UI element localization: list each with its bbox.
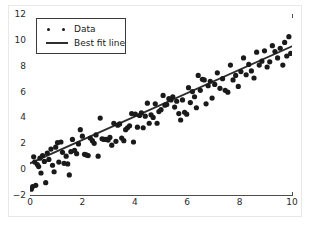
y-tick-label: 4 bbox=[20, 112, 26, 123]
data-point bbox=[196, 73, 201, 78]
axis-spine-bottom bbox=[30, 195, 292, 196]
data-point bbox=[147, 121, 152, 126]
legend-label-data: Data bbox=[71, 23, 96, 35]
data-point bbox=[151, 115, 156, 120]
data-point bbox=[154, 121, 159, 126]
data-point bbox=[178, 117, 183, 122]
data-point bbox=[262, 48, 267, 53]
data-point bbox=[74, 151, 79, 156]
data-point bbox=[158, 107, 163, 112]
x-tick-label: 10 bbox=[286, 197, 297, 208]
data-point bbox=[78, 127, 83, 132]
data-point bbox=[50, 163, 55, 168]
y-tick-label: 10 bbox=[15, 34, 26, 45]
solid-line-icon bbox=[41, 42, 71, 44]
data-point bbox=[76, 141, 81, 146]
data-point bbox=[131, 139, 136, 144]
data-point bbox=[208, 79, 213, 84]
data-point bbox=[80, 134, 85, 139]
data-point bbox=[272, 49, 277, 54]
data-point bbox=[153, 101, 158, 106]
data-point bbox=[127, 123, 132, 128]
best-fit-line bbox=[30, 46, 292, 163]
data-point bbox=[233, 73, 238, 78]
data-point bbox=[58, 139, 63, 144]
data-point bbox=[40, 153, 45, 158]
data-point bbox=[161, 93, 166, 98]
data-point bbox=[220, 76, 225, 81]
x-tick-label: 4 bbox=[132, 197, 138, 208]
x-tick-label: 8 bbox=[237, 197, 243, 208]
data-point bbox=[38, 170, 43, 175]
data-point bbox=[141, 125, 146, 130]
y-tick-label: 6 bbox=[20, 86, 26, 97]
data-point bbox=[194, 105, 199, 110]
data-point bbox=[107, 135, 112, 140]
x-tick-label: 6 bbox=[184, 197, 190, 208]
y-tick-label: 2 bbox=[20, 138, 26, 149]
data-point bbox=[98, 115, 103, 120]
data-point bbox=[230, 77, 235, 82]
data-point bbox=[184, 112, 189, 117]
y-tick bbox=[30, 195, 34, 196]
data-point bbox=[113, 139, 118, 144]
data-point bbox=[86, 153, 91, 158]
data-point bbox=[36, 164, 41, 169]
data-points bbox=[30, 34, 292, 192]
data-point bbox=[45, 150, 50, 155]
data-point bbox=[265, 64, 270, 69]
data-point bbox=[96, 154, 101, 159]
y-tick-right bbox=[288, 195, 292, 196]
data-point bbox=[31, 154, 36, 159]
data-point bbox=[164, 102, 169, 107]
data-point bbox=[186, 85, 191, 90]
scatter-dots-icon bbox=[41, 28, 71, 31]
data-point bbox=[241, 55, 246, 60]
data-point bbox=[174, 99, 179, 104]
data-point bbox=[270, 43, 275, 48]
x-tick-label: 0 bbox=[27, 197, 33, 208]
data-point bbox=[282, 40, 287, 45]
data-point bbox=[188, 100, 193, 105]
data-point bbox=[56, 159, 61, 164]
legend-label-bestfit: Best fit line bbox=[71, 37, 125, 49]
data-point bbox=[212, 82, 217, 87]
data-point bbox=[236, 84, 241, 89]
data-point bbox=[203, 101, 208, 106]
data-point bbox=[70, 137, 75, 142]
data-point bbox=[215, 70, 220, 75]
fit-line-segment bbox=[30, 46, 292, 163]
data-point bbox=[249, 68, 254, 73]
legend: Data Best fit line bbox=[36, 18, 126, 54]
data-point bbox=[228, 62, 233, 67]
data-point bbox=[33, 183, 38, 188]
data-point bbox=[275, 55, 280, 60]
data-point bbox=[202, 77, 207, 82]
data-point bbox=[192, 94, 197, 99]
data-point bbox=[143, 114, 148, 119]
x-tick-top bbox=[292, 14, 293, 18]
data-point bbox=[198, 88, 203, 93]
data-point bbox=[278, 46, 283, 51]
data-point bbox=[259, 59, 264, 64]
data-point bbox=[225, 90, 230, 95]
data-point bbox=[67, 172, 72, 177]
data-point bbox=[48, 147, 53, 152]
data-point bbox=[244, 72, 249, 77]
figure: 0246810−2024681012 Data Best fit line bbox=[0, 0, 310, 227]
data-point bbox=[254, 50, 259, 55]
y-tick-label: 0 bbox=[20, 164, 26, 175]
x-tick bbox=[292, 192, 293, 196]
data-point bbox=[180, 97, 185, 102]
data-point bbox=[267, 59, 272, 64]
data-point bbox=[117, 121, 122, 126]
data-point bbox=[53, 145, 58, 150]
data-point bbox=[93, 132, 98, 137]
data-point bbox=[251, 75, 256, 80]
data-point bbox=[121, 138, 126, 143]
x-tick-label: 2 bbox=[80, 197, 86, 208]
data-point bbox=[170, 94, 175, 99]
data-point bbox=[109, 143, 114, 148]
y-tick-label: 8 bbox=[20, 60, 26, 71]
legend-entry-data: Data bbox=[41, 22, 121, 36]
